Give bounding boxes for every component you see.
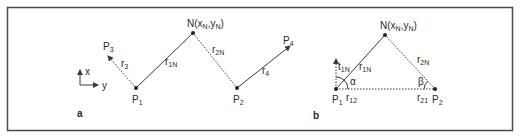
- node-p2: [235, 86, 239, 90]
- panel-a: x y P3 P1 P2 P4 N(xN,yN) r3 r1N r2N r4 a: [77, 18, 294, 119]
- label-p4: P4: [283, 35, 294, 47]
- axes-icon: x y: [80, 66, 107, 91]
- node-n: [383, 33, 387, 37]
- label-p1: P1: [132, 94, 143, 106]
- angle-arc-t1n: [336, 77, 344, 80]
- panel-a-label: a: [77, 108, 83, 119]
- label-t1n: t1N: [338, 61, 350, 73]
- node-p1: [134, 86, 138, 90]
- label-beta: β: [418, 76, 424, 87]
- figure-frame: [8, 8, 513, 131]
- label-p3: P3: [103, 41, 114, 53]
- label-r2n: r2N: [417, 54, 429, 66]
- node-p2: [433, 87, 437, 91]
- axis-y-label: y: [102, 80, 107, 91]
- figure: x y P3 P1 P2 P4 N(xN,yN) r3 r1N r2N r4 a: [0, 0, 520, 139]
- label-r4: r4: [262, 65, 269, 77]
- label-r21: r21: [417, 92, 428, 104]
- label-alpha: α: [350, 76, 356, 87]
- label-n: N(xN,yN): [380, 20, 417, 32]
- angle-arc-beta: [424, 81, 428, 89]
- node-p1: [334, 87, 338, 91]
- label-r2n: r2N: [212, 44, 224, 56]
- label-r1n: r1N: [165, 56, 177, 68]
- label-p2: P2: [432, 94, 443, 106]
- label-p1: P1: [332, 94, 343, 106]
- axis-x-label: x: [85, 66, 90, 77]
- edge-r2N: [193, 33, 237, 88]
- node-n: [191, 31, 195, 35]
- panel-b-label: b: [313, 110, 319, 121]
- label-r3: r3: [121, 58, 128, 70]
- panel-b: P1 P2 N(xN,yN) t1N r1N r2N r12 r21 α β b: [313, 20, 443, 121]
- angle-arc-alpha: [344, 80, 348, 89]
- label-r1n: r1N: [359, 61, 371, 73]
- label-p2: P2: [233, 94, 244, 106]
- label-n: N(xN,yN): [187, 18, 224, 30]
- label-r12: r12: [346, 92, 357, 104]
